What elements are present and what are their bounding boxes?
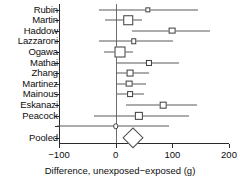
study-point-marker (168, 27, 175, 34)
study-point-marker (126, 80, 133, 87)
y-axis-line (59, 4, 60, 143)
x-axis-line (59, 143, 229, 144)
study-label: Zhang (32, 68, 58, 78)
study-point-marker (127, 91, 133, 97)
pooled-label: Pooled (29, 133, 58, 143)
x-axis-tick-label: 100 (164, 150, 180, 160)
x-axis-title: Difference, unexposed−exposed (g) (0, 166, 240, 176)
study-label: Rubin (34, 5, 58, 15)
pooled-estimate-diamond (122, 127, 143, 148)
x-axis-tick-label: 0 (113, 150, 118, 160)
study-label: Lazzaroni (18, 37, 58, 47)
x-axis-tick (59, 144, 60, 148)
study-point-marker (127, 70, 134, 77)
study-label: Eskanazi (20, 100, 58, 110)
study-point-marker (113, 123, 119, 129)
study-label: Martinez (22, 79, 58, 89)
x-axis-tick (229, 144, 230, 148)
x-axis-tick-label: 200 (221, 150, 237, 160)
study-label: Ogawa (28, 47, 58, 57)
study-point-marker (123, 15, 133, 25)
x-axis-tick (116, 144, 117, 148)
study-label: Haddow (24, 26, 58, 36)
forest-plot: RubinMartinHaddowLazzaroniOgawaMathaiZha… (0, 0, 240, 191)
study-label: Mainous (23, 90, 58, 100)
study-label: Peacock (22, 111, 58, 121)
study-point-marker (135, 111, 143, 119)
x-axis-tick (172, 144, 173, 148)
study-label: Martin (32, 15, 58, 25)
study-point-marker (145, 7, 150, 12)
study-label: Mathai (30, 58, 58, 68)
x-axis-tick-label: −100 (48, 150, 69, 160)
study-point-marker (131, 39, 137, 45)
study-point-marker (114, 46, 125, 57)
study-point-marker (146, 59, 152, 65)
study-point-marker (160, 102, 167, 109)
